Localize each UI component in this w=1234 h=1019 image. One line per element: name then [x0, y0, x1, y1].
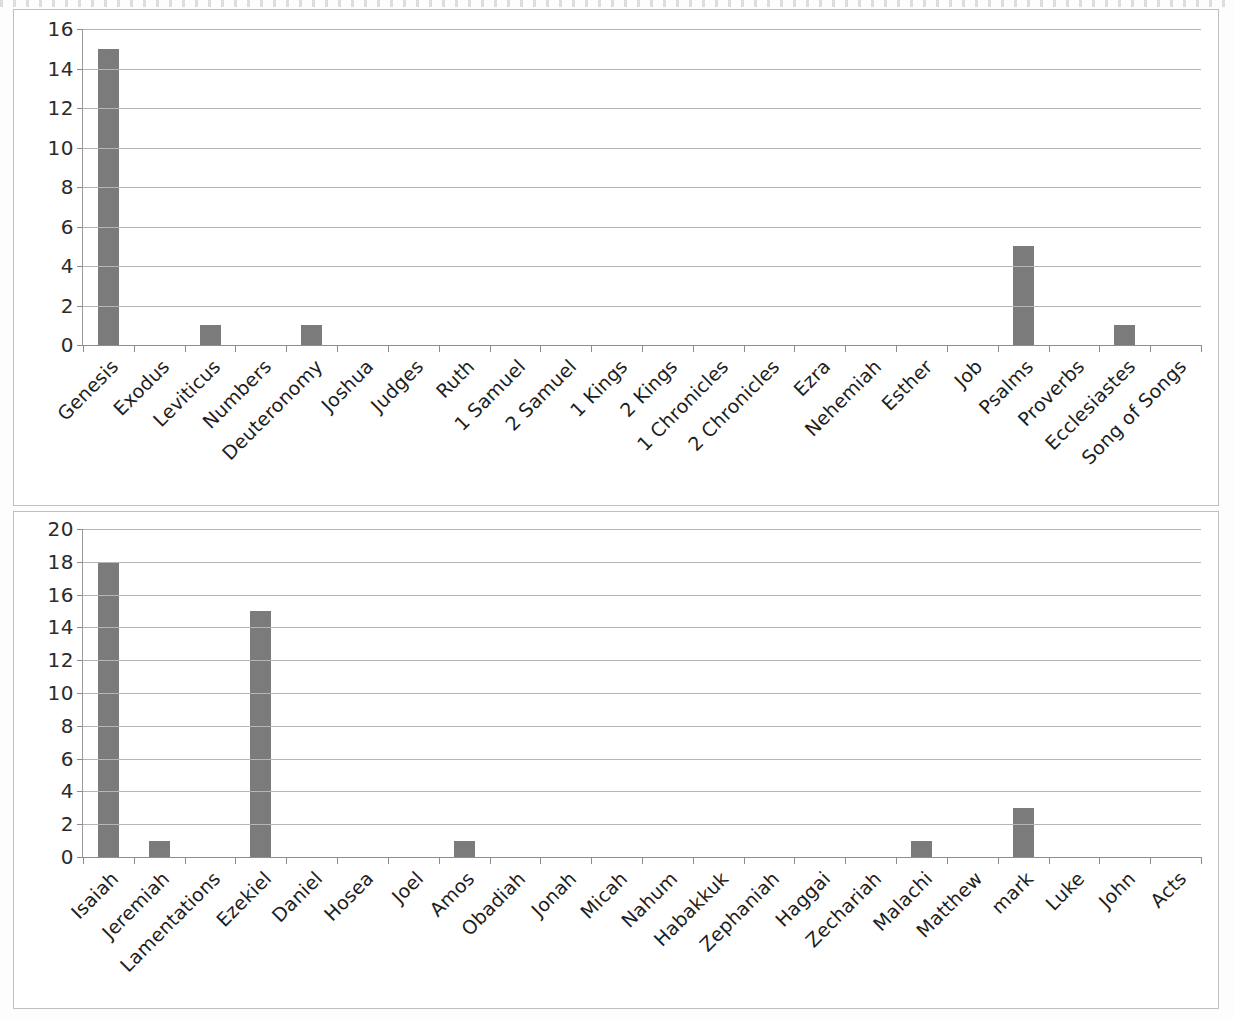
- y-axis-labels-top: 0246810121416: [24, 10, 74, 385]
- plot-wrapper-top: 0246810121416 GenesisExodusLeviticusNumb…: [14, 10, 1218, 505]
- y-tick-label: 2: [61, 294, 74, 318]
- plot-area-bottom: [82, 529, 1201, 858]
- gridline: [83, 148, 1201, 149]
- gridline: [83, 529, 1201, 530]
- chart-panel-bottom: 02468101214161820 IsaiahJeremiahLamentat…: [13, 511, 1219, 1009]
- x-category-label-text: mark: [987, 867, 1038, 918]
- bar: [98, 49, 119, 345]
- x-tick-mark: [83, 345, 84, 352]
- gridline: [83, 627, 1201, 628]
- gridline: [83, 562, 1201, 563]
- gridline: [83, 69, 1201, 70]
- x-category-label-text: John: [1094, 867, 1139, 912]
- y-tick-label: 20: [48, 517, 74, 541]
- gridline: [83, 29, 1201, 30]
- x-category-label-text: Joel: [388, 867, 428, 907]
- y-tick-label: 14: [48, 615, 74, 639]
- y-tick-label: 14: [48, 57, 74, 81]
- y-tick-label: 2: [61, 812, 74, 836]
- gridline: [83, 791, 1201, 792]
- y-tick-label: 18: [48, 550, 74, 574]
- y-tick-label: 4: [61, 779, 74, 803]
- chart-panel-top: 0246810121416 GenesisExodusLeviticusNumb…: [13, 9, 1219, 506]
- y-tick-label: 4: [61, 254, 74, 278]
- gridline: [83, 595, 1201, 596]
- x-tick-mark: [83, 857, 84, 864]
- y-tick-label: 16: [48, 583, 74, 607]
- plot-wrapper-bottom: 02468101214161820 IsaiahJeremiahLamentat…: [14, 512, 1218, 1008]
- y-tick-label: 6: [61, 747, 74, 771]
- plot-area-top: [82, 29, 1201, 346]
- y-tick-label: 16: [48, 17, 74, 41]
- x-category-label-text: 2 Chronicles: [684, 355, 784, 455]
- x-category-label-text: Ezra: [789, 355, 834, 400]
- y-tick-label: 10: [48, 681, 74, 705]
- gridline: [83, 187, 1201, 188]
- y-tick-label: 12: [48, 648, 74, 672]
- gridline: [83, 227, 1201, 228]
- gridline: [83, 660, 1201, 661]
- bar: [98, 562, 119, 857]
- y-tick-label: 8: [61, 714, 74, 738]
- x-category-label-text: Ruth: [432, 355, 479, 402]
- gridline: [83, 726, 1201, 727]
- y-tick-label: 0: [61, 845, 74, 869]
- x-category-label-text: Job: [950, 355, 987, 392]
- page-canvas: 0246810121416 GenesisExodusLeviticusNumb…: [0, 0, 1234, 1019]
- gridline: [83, 108, 1201, 109]
- y-tick-label: 12: [48, 96, 74, 120]
- gridline: [83, 693, 1201, 694]
- y-tick-label: 6: [61, 215, 74, 239]
- x-category-label-text: Luke: [1041, 867, 1088, 914]
- scan-artifact-top: [0, 0, 1234, 7]
- gridline: [83, 266, 1201, 267]
- bar: [454, 841, 475, 857]
- x-category-label-text: Acts: [1145, 867, 1190, 912]
- bar: [1013, 246, 1034, 345]
- y-tick-label: 10: [48, 136, 74, 160]
- gridline: [83, 759, 1201, 760]
- y-tick-label: 8: [61, 175, 74, 199]
- y-tick-label: 0: [61, 333, 74, 357]
- y-axis-labels-bottom: 02468101214161820: [24, 512, 74, 897]
